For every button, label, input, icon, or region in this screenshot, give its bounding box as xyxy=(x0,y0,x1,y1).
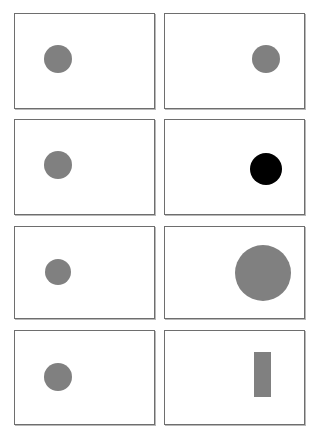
panel-r3c2[interactable] xyxy=(164,226,305,319)
gray-circle xyxy=(44,151,72,179)
panel-r2c2[interactable] xyxy=(164,119,305,215)
gray-circle xyxy=(44,363,72,391)
panel-r1c2[interactable] xyxy=(164,13,305,109)
panel-r4c2[interactable] xyxy=(164,330,305,425)
large-gray-circle xyxy=(235,245,291,301)
panel-r2c1[interactable] xyxy=(14,119,155,215)
gray-circle xyxy=(252,45,280,73)
gray-vertical-rectangle xyxy=(254,352,271,397)
gray-circle xyxy=(45,259,71,285)
shape-panel-grid xyxy=(0,0,318,439)
gray-circle xyxy=(44,45,72,73)
panel-r3c1[interactable] xyxy=(14,226,155,319)
panel-r4c1[interactable] xyxy=(14,330,155,425)
panel-r1c1[interactable] xyxy=(14,13,155,109)
black-circle xyxy=(250,153,282,185)
